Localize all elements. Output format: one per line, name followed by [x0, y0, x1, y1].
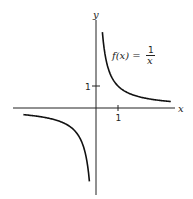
curve-positive-branch [102, 32, 170, 101]
function-annotation-numerator: 1 [148, 45, 154, 55]
x-tick-label: 1 [116, 113, 122, 123]
function-annotation-denominator: x [147, 55, 153, 66]
y-axis-label: y [92, 9, 99, 20]
function-annotation-lhs: f(x) = [111, 50, 141, 61]
function-annotation: f(x) = 1 x [111, 45, 155, 66]
x-axis-label: x [178, 103, 184, 114]
curve-negative-branch [23, 115, 89, 182]
function-graph: 11 x y f(x) = 1 x [0, 0, 193, 199]
y-tick-label: 1 [85, 82, 91, 92]
